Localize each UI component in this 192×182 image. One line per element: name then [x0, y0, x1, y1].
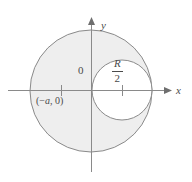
y-axis-arrowhead — [88, 17, 95, 25]
fraction: R 2 — [112, 58, 123, 84]
origin-label: 0 — [78, 65, 84, 76]
figure-canvas — [0, 0, 192, 182]
point-minus-a-label: (−a, 0) — [36, 96, 63, 106]
geometry-figure: y x 0 (−a, 0) R 2 — [0, 0, 192, 182]
fraction-numerator: R — [112, 58, 123, 71]
x-axis-label: x — [176, 85, 181, 96]
fraction-denominator: 2 — [112, 72, 123, 85]
point-label-close-paren: ) — [60, 95, 63, 106]
radius-half-label: R 2 — [112, 58, 123, 84]
y-axis-label: y — [101, 20, 106, 31]
x-axis-arrowhead — [164, 87, 172, 94]
